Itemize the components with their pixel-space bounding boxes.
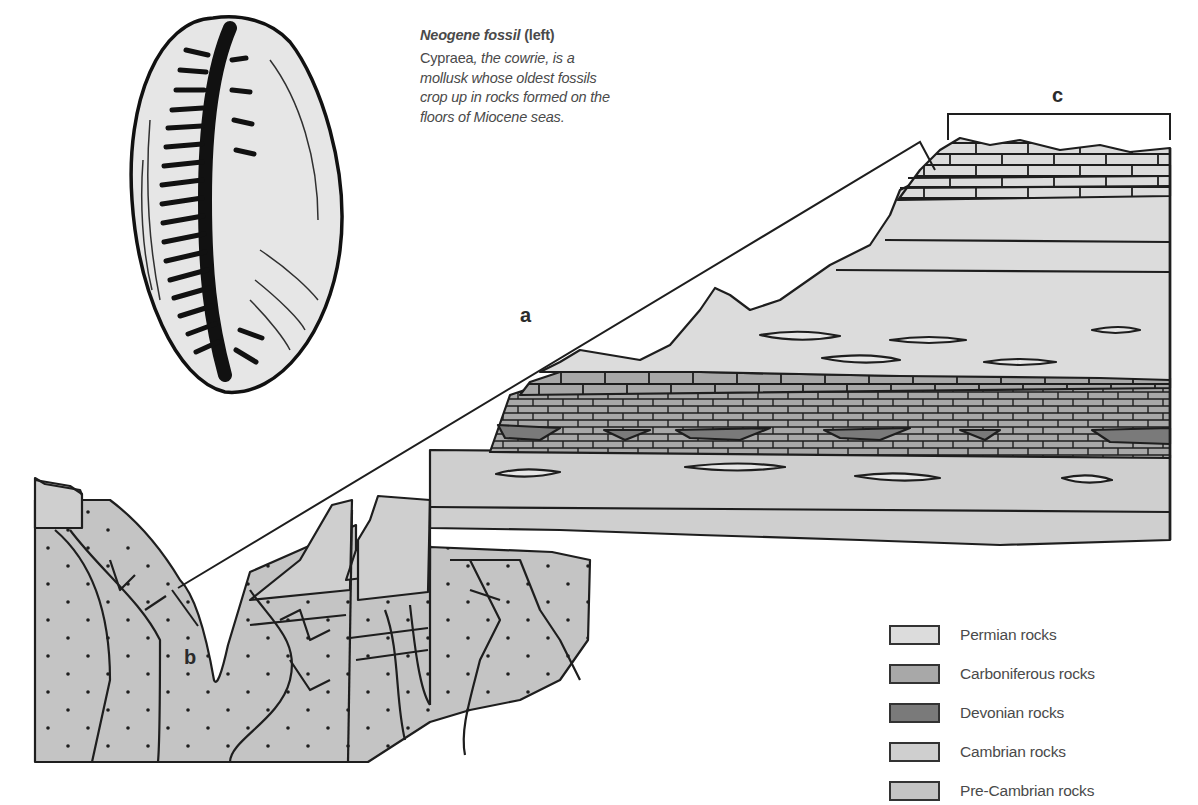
fossil-caption: Neogene fossil (left) Cypraea, the cowri… <box>420 26 610 127</box>
label-b: b <box>184 646 196 669</box>
rock-legend: Permian rocks Carboniferous rocks Devoni… <box>889 615 1095 805</box>
bracket-c <box>948 114 1170 140</box>
carboniferous-swatch <box>889 664 940 684</box>
precambrian-swatch <box>889 781 940 801</box>
caption-title-suffix: (left) <box>524 27 554 43</box>
caption-body: Cypraea, the cowrie, is a mollusk whose … <box>420 49 610 127</box>
legend-label: Carboniferous rocks <box>960 665 1095 683</box>
legend-label: Devonian rocks <box>960 704 1064 722</box>
legend-item-precambrian: Pre-Cambrian rocks <box>889 771 1095 805</box>
legend-label: Pre-Cambrian rocks <box>960 782 1094 800</box>
cowrie-shell-illustration <box>131 17 342 393</box>
caption-title-italic: Neogene fossil <box>420 27 520 43</box>
label-a: a <box>520 304 531 327</box>
legend-item-devonian: Devonian rocks <box>889 693 1095 732</box>
label-c: c <box>1052 84 1063 107</box>
legend-label: Permian rocks <box>960 626 1056 644</box>
legend-label: Cambrian rocks <box>960 743 1066 761</box>
permian-swatch <box>889 625 940 645</box>
caption-genus: Cypraea <box>420 50 473 66</box>
cambrian-swatch <box>889 742 940 762</box>
legend-item-permian: Permian rocks <box>889 615 1095 654</box>
devonian-swatch <box>889 703 940 723</box>
legend-item-cambrian: Cambrian rocks <box>889 732 1095 771</box>
legend-item-carboniferous: Carboniferous rocks <box>889 654 1095 693</box>
caption-title: Neogene fossil (left) <box>420 26 610 45</box>
